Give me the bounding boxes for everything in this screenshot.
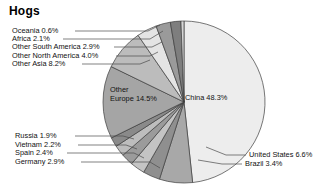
label-brazil: Brazil 3.4% xyxy=(245,160,282,169)
pie-chart-figure: Hogs Oceania 0.6% Africa 2.1% Other Sout… xyxy=(0,0,327,194)
label-germany: Germany 2.9% xyxy=(15,158,64,167)
label-other-europe-line2: Europe 14.5% xyxy=(110,95,157,104)
label-china: China 48.3% xyxy=(185,94,227,103)
label-other-asia: Other Asia 8.2% xyxy=(12,60,65,69)
